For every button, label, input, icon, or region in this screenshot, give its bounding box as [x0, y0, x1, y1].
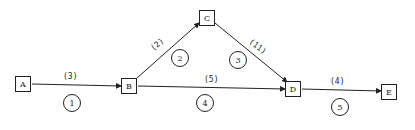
edge-b-d — [138, 86, 285, 89]
node-c: C — [199, 10, 215, 26]
activity-circle-5: 5 — [331, 98, 349, 116]
edge-a-b — [32, 84, 121, 86]
network-diagram: A B C D E (3) (2) (11) (5) (4) 1 2 3 4 5 — [0, 0, 415, 130]
activity-circle-3: 3 — [229, 51, 247, 69]
activity-circle-4: 4 — [196, 94, 214, 112]
duration-label-5: (4) — [330, 77, 344, 86]
edge-d-e — [302, 89, 381, 91]
edge-b-c — [137, 23, 199, 78]
node-b: B — [121, 78, 137, 94]
node-e: E — [381, 84, 397, 100]
edge-c-d — [215, 23, 287, 82]
duration-label-1: (3) — [63, 72, 77, 81]
node-d: D — [285, 81, 301, 97]
duration-label-4: (5) — [204, 75, 218, 84]
activity-circle-1: 1 — [63, 94, 81, 112]
activity-circle-2: 2 — [171, 49, 189, 67]
node-a: A — [15, 76, 31, 92]
